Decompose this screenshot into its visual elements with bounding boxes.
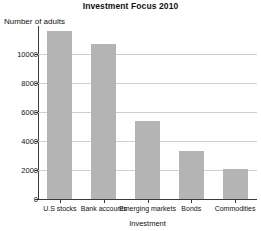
y-tick-label: 0 xyxy=(6,195,38,204)
x-axis-label: Investment xyxy=(38,219,257,228)
y-tick-label: 10000 xyxy=(6,50,38,59)
chart-title: Investment Focus 2010 xyxy=(0,1,261,11)
bar-bank-accounts xyxy=(91,44,116,199)
y-tick-label: 2000 xyxy=(6,166,38,175)
y-tick-label: 6000 xyxy=(6,108,38,117)
bar-commodities xyxy=(223,169,248,199)
bar-u-s-stocks xyxy=(47,31,72,199)
x-tick-label: Bonds xyxy=(181,205,201,212)
x-tick-label: U.S stocks xyxy=(43,205,76,212)
bar-bonds xyxy=(179,151,204,199)
x-tick-mark xyxy=(148,199,149,203)
y-axis-label: Number of adults xyxy=(4,17,65,26)
x-tick-mark xyxy=(60,199,61,203)
y-tick-label: 8000 xyxy=(6,79,38,88)
bar-emerging-markets xyxy=(135,121,160,199)
y-tick-label: 4000 xyxy=(6,137,38,146)
x-tick-mark xyxy=(235,199,236,203)
plot-area xyxy=(38,26,257,199)
x-tick-mark xyxy=(104,199,105,203)
x-tick-label: Commodities xyxy=(215,205,256,212)
bar-chart: Investment Focus 2010 Number of adults 0… xyxy=(0,0,261,231)
x-tick-label: Emerging markets xyxy=(119,205,176,212)
x-tick-mark xyxy=(191,199,192,203)
